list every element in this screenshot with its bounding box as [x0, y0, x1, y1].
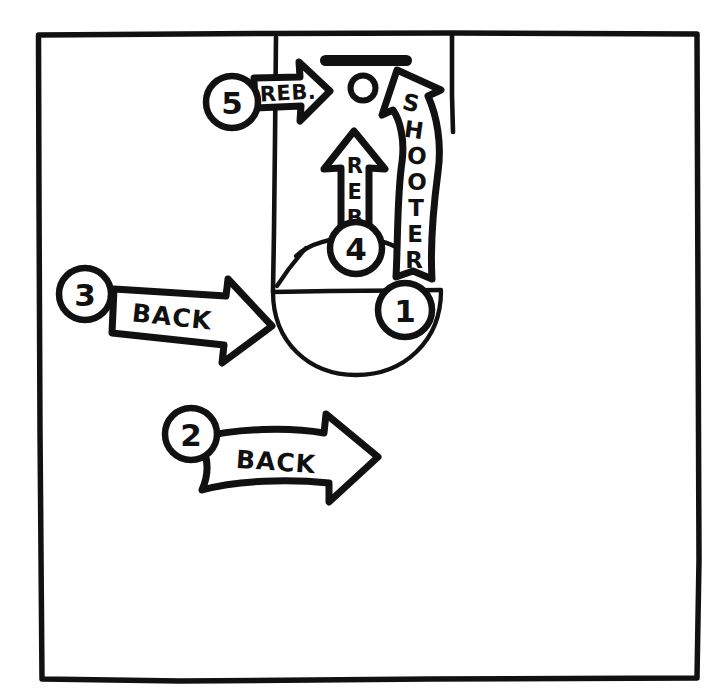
arrow-reb-horizontal-label: REB. — [259, 80, 317, 107]
marker-5-number: 5 — [221, 85, 243, 121]
marker-2-number: 2 — [180, 417, 202, 453]
shooter-letter-e: E — [407, 221, 423, 247]
arrow-reb-vertical-letter-r: R — [347, 154, 364, 178]
marker-3-number: 3 — [74, 277, 96, 313]
arrow-back-upper[interactable]: BACK — [112, 279, 272, 363]
basketball-play-diagram: REB. 5 R E B . 4 S H O O T E — [0, 0, 711, 696]
marker-3[interactable]: 3 — [59, 268, 111, 320]
marker-1-number: 1 — [394, 293, 416, 329]
arrow-reb-vertical-letter-e: E — [348, 180, 363, 204]
marker-4-number: 4 — [345, 231, 367, 267]
court-frame — [39, 33, 700, 681]
marker-4[interactable]: 4 — [330, 222, 382, 274]
shooter-letter-h: H — [403, 116, 426, 144]
lane-hash-tick — [277, 248, 306, 286]
marker-2[interactable]: 2 — [165, 408, 217, 460]
shooter-letter-o1: O — [406, 142, 428, 170]
backboard — [320, 55, 412, 66]
arrow-back-lower[interactable]: BACK — [198, 414, 378, 502]
arrow-back-lower-label: BACK — [235, 445, 318, 480]
shooter-letter-t: T — [408, 195, 424, 221]
marker-5[interactable]: 5 — [206, 76, 258, 128]
shooter-letter-r: R — [405, 247, 423, 273]
shooter-letter-o2: O — [407, 169, 427, 195]
marker-1[interactable]: 1 — [378, 283, 432, 337]
diagram-page: REB. 5 R E B . 4 S H O O T E — [0, 0, 711, 696]
hoop — [351, 76, 376, 101]
arrow-reb-horizontal[interactable]: REB. — [254, 62, 330, 121]
lane-right-line — [452, 35, 453, 132]
arrow-shooter[interactable]: S H O O T E R — [382, 70, 441, 279]
